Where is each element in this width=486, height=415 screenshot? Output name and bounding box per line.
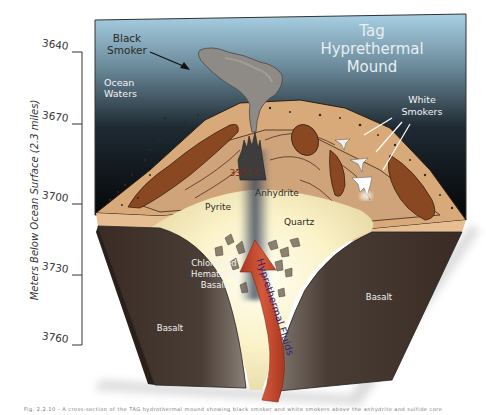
axis-tick-label: 3670 <box>41 108 69 124</box>
hydrothermal-mound-diagram: 3640 3670 3700 3730 3760 Meters Below Oc… <box>0 0 486 415</box>
figure-caption: Fig. 2.2.10 - A cross-section of the TAG… <box>24 406 442 412</box>
axis-tick-label: 3730 <box>41 259 69 275</box>
svg-text:Tag: Tag <box>358 22 384 40</box>
label-ocean-waters: Ocean Waters <box>104 77 137 99</box>
axis-tick-label: 3700 <box>41 188 69 204</box>
svg-text:Hyprethermal: Hyprethermal <box>320 40 423 58</box>
label-pyrite: Pyrite <box>205 202 231 212</box>
axis-ticks <box>72 52 82 345</box>
svg-text:Chloritized: Chloritized <box>191 258 237 268</box>
label-anhydrite: Anhydrite <box>255 188 299 198</box>
axis-title: Meters Below Ocean Surface (2.3 miles) <box>29 100 40 301</box>
depth-axis: 3640 3670 3700 3730 3760 Meters Below Oc… <box>29 36 82 345</box>
svg-text:Smoker: Smoker <box>107 44 147 56</box>
svg-text:Mound: Mound <box>347 58 398 76</box>
svg-text:Waters: Waters <box>104 88 137 99</box>
svg-text:Ocean: Ocean <box>104 77 134 88</box>
svg-text:Basalt: Basalt <box>201 280 228 290</box>
svg-text:Smokers: Smokers <box>402 106 443 117</box>
svg-text:Black: Black <box>113 32 142 44</box>
label-quartz: Quartz <box>284 217 315 227</box>
svg-text:White: White <box>408 94 436 105</box>
label-basalt-right: Basalt <box>366 292 393 302</box>
svg-text:Hematized: Hematized <box>191 269 237 279</box>
label-basalt-left: Basalt <box>157 323 184 333</box>
label-temperature: 335° C <box>230 168 261 178</box>
axis-tick-label: 3760 <box>41 329 69 345</box>
axis-tick-label: 3640 <box>41 36 69 52</box>
